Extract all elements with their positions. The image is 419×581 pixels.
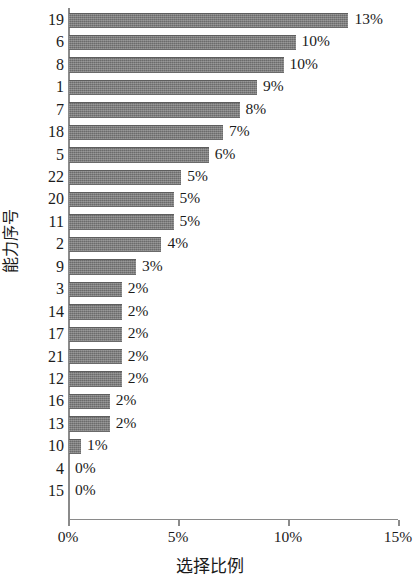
bar <box>69 237 161 252</box>
bar <box>69 125 223 140</box>
y-axis-tick-label: 14 <box>24 301 64 323</box>
bar-row: 2% <box>68 301 398 323</box>
y-axis-tick-label: 22 <box>24 166 64 188</box>
y-axis-tick-label: 15 <box>24 480 64 502</box>
bar-row: 6% <box>68 144 398 166</box>
y-axis-tick-label: 7 <box>24 99 64 121</box>
bar-value-label: 2% <box>128 300 149 322</box>
bar-row: 2% <box>68 390 398 412</box>
bar <box>69 57 284 72</box>
bar-row: 4% <box>68 233 398 255</box>
bar <box>69 282 122 297</box>
bar-value-label: 5% <box>180 187 201 209</box>
bar-value-label: 1% <box>87 434 108 456</box>
bar-value-label: 3% <box>142 255 163 277</box>
y-axis-tick-label: 17 <box>24 323 64 345</box>
x-axis-tick-mark <box>398 520 400 526</box>
bar-value-label: 0% <box>75 457 96 479</box>
y-axis-tick-label: 12 <box>24 368 64 390</box>
x-axis-tick-mark <box>178 520 180 526</box>
bar-row: 8% <box>68 99 398 121</box>
x-axis-tick-mark <box>288 520 290 526</box>
y-axis-tick-label: 6 <box>24 31 64 53</box>
bar-row: 10% <box>68 54 398 76</box>
bar-value-label: 13% <box>354 8 382 30</box>
bar-row: 3% <box>68 256 398 278</box>
x-axis-tick-label: 10% <box>258 528 318 546</box>
y-axis-tick-label: 11 <box>24 211 64 233</box>
y-axis-tick-label: 18 <box>24 121 64 143</box>
y-axis-tick-label: 4 <box>24 458 64 480</box>
x-axis-tick-label: 0% <box>38 528 98 546</box>
x-axis-tick-label: 5% <box>148 528 208 546</box>
y-axis-tick-label: 20 <box>24 188 64 210</box>
bar-value-label: 8% <box>246 98 267 120</box>
x-axis-tick-mark <box>68 520 70 526</box>
bar <box>69 439 81 454</box>
bar-row: 13% <box>68 9 398 31</box>
bar <box>69 80 257 95</box>
y-axis-tick-label: 19 <box>24 9 64 31</box>
y-axis-tick-label: 10 <box>24 435 64 457</box>
bar-row: 5% <box>68 188 398 210</box>
y-axis-tick-label: 5 <box>24 144 64 166</box>
bar-value-label: 4% <box>167 232 188 254</box>
bar-row: 2% <box>68 278 398 300</box>
y-axis-tick-label: 3 <box>24 278 64 300</box>
bar <box>69 394 110 409</box>
bar-row: 2% <box>68 368 398 390</box>
bar <box>69 192 174 207</box>
bar-value-label: 2% <box>128 367 149 389</box>
bar-value-label: 2% <box>128 345 149 367</box>
x-axis-tick-label: 15% <box>368 528 419 546</box>
bar-row: 5% <box>68 211 398 233</box>
bar-row: 0% <box>68 458 398 480</box>
x-axis-title: 选择比例 <box>0 552 419 577</box>
bar-value-label: 0% <box>75 479 96 501</box>
plot-area: 13%10%10%9%8%7%6%5%5%5%4%3%2%2%2%2%2%2%2… <box>68 8 398 520</box>
y-axis-tick-label: 16 <box>24 390 64 412</box>
bar-value-label: 6% <box>215 143 236 165</box>
bar <box>69 304 122 319</box>
bar-value-label: 9% <box>263 75 284 97</box>
bar-row: 10% <box>68 31 398 53</box>
bar-value-label: 7% <box>229 120 250 142</box>
bar-row: 1% <box>68 435 398 457</box>
bar-row: 2% <box>68 413 398 435</box>
bar-value-label: 2% <box>128 277 149 299</box>
bar <box>69 13 348 28</box>
bar <box>69 35 296 50</box>
bar-chart: 能力序号 19681718522201129314172112161310415… <box>0 0 419 581</box>
y-axis-tick-label: 13 <box>24 413 64 435</box>
bar-row: 0% <box>68 480 398 502</box>
bar-row: 5% <box>68 166 398 188</box>
bar <box>69 259 136 274</box>
bar-row: 7% <box>68 121 398 143</box>
bar <box>69 102 240 117</box>
bar-row: 2% <box>68 323 398 345</box>
bar-value-label: 2% <box>116 412 137 434</box>
y-axis-tick-label: 1 <box>24 76 64 98</box>
bar <box>69 416 110 431</box>
bar-value-label: 10% <box>302 30 330 52</box>
bar <box>69 170 181 185</box>
y-axis-tick-label: 9 <box>24 256 64 278</box>
y-axis-title: 能力序号 <box>0 176 22 306</box>
bar-row: 9% <box>68 76 398 98</box>
bar-value-label: 2% <box>116 389 137 411</box>
y-axis-tick-labels: 19681718522201129314172112161310415 <box>20 8 64 520</box>
bar <box>69 349 122 364</box>
x-axis-line <box>68 519 398 521</box>
y-axis-tick-label: 21 <box>24 346 64 368</box>
bar <box>69 327 122 342</box>
bar <box>69 214 174 229</box>
bar-value-label: 5% <box>187 165 208 187</box>
y-axis-tick-label: 8 <box>24 54 64 76</box>
bar-value-label: 2% <box>128 322 149 344</box>
bar-row: 2% <box>68 346 398 368</box>
bar <box>69 147 209 162</box>
y-axis-tick-label: 2 <box>24 233 64 255</box>
bar-value-label: 10% <box>290 53 318 75</box>
bar <box>69 371 122 386</box>
bar-value-label: 5% <box>180 210 201 232</box>
